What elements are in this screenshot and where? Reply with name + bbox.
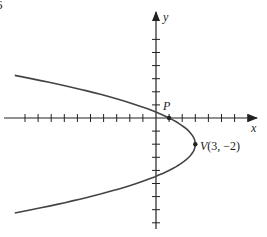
point-p-label: P [162,99,171,113]
parabola-figure: 6 P V(3, −2) x y [0,0,267,237]
x-axis-label: x [250,121,257,135]
figure-number: 6 [0,0,3,12]
vertex-label: V(3, −2) [200,139,240,153]
coordinate-plane: 6 P V(3, −2) x y [0,0,267,237]
vertex-marker [193,142,197,146]
parabola-curve [15,75,196,213]
y-axis-label: y [162,10,169,24]
vertex-label-coords: (3, −2) [207,139,240,153]
point-p-marker [167,116,171,120]
